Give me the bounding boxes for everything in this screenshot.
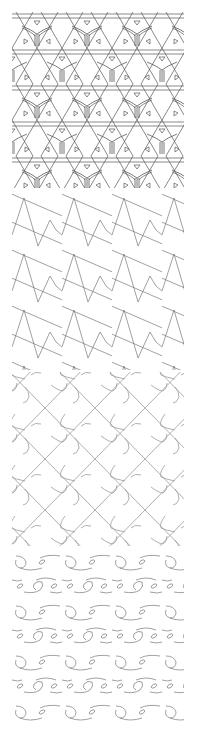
- pattern-panel-diagonal-lattice: [12, 372, 184, 546]
- pattern-panel-zigzag: [12, 190, 184, 370]
- diagonal-lattice-pattern: [12, 372, 184, 546]
- zigzag-pattern: [12, 190, 184, 370]
- wave-scroll-pattern: [12, 552, 184, 726]
- pattern-panel-wave-scrolls: [12, 552, 184, 726]
- triangular-grid-pattern: [12, 12, 184, 188]
- pattern-panel-triangular-grid: [12, 12, 184, 188]
